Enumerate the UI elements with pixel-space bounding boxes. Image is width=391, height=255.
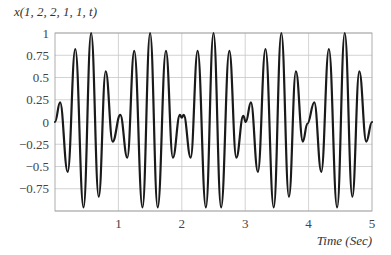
x-tick-label: 1 (115, 216, 122, 231)
y-tick-label: −0.5 (25, 159, 49, 174)
x-tick-label: 2 (179, 216, 186, 231)
y-axis-title: x(1, 2, 2, 1, 1, t) (13, 4, 97, 19)
y-tick-label: 1 (43, 26, 50, 41)
x-tick-label: 4 (305, 216, 312, 231)
x-tick-label: 5 (369, 216, 376, 231)
x-axis-ticks: 12345 (115, 216, 375, 231)
y-tick-label: 0.25 (26, 92, 49, 107)
y-tick-label: −0.25 (19, 137, 49, 152)
y-tick-label: −0.75 (19, 181, 49, 196)
signal-curve (55, 33, 372, 207)
y-axis-ticks: 10.750.50.250−0.25−0.5−0.75 (19, 26, 49, 197)
y-tick-label: 0.75 (26, 48, 49, 63)
y-tick-label: 0 (43, 115, 50, 130)
y-tick-label: 0.5 (33, 70, 49, 85)
x-axis-title: Time (Sec) (317, 233, 372, 248)
line-chart: 10.750.50.250−0.25−0.5−0.75 12345 x(1, 2… (0, 0, 391, 255)
x-tick-label: 3 (242, 216, 249, 231)
